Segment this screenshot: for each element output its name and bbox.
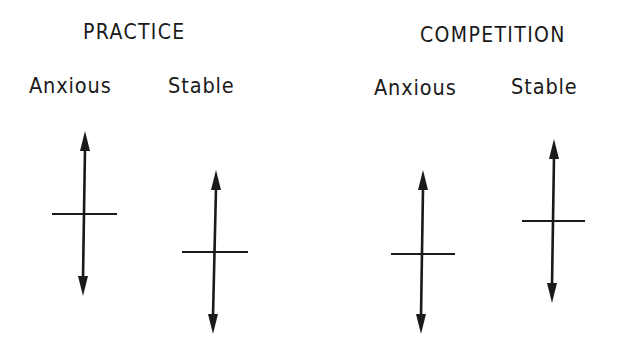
arrowhead-down-icon (208, 314, 218, 334)
arrowhead-down-icon (416, 314, 426, 334)
arrowhead-up-icon (418, 170, 428, 190)
practice-stable-arrow-icon (182, 170, 248, 334)
arrow-shaft (421, 188, 423, 316)
arrowhead-up-icon (211, 170, 221, 190)
arrow-layer (52, 131, 585, 334)
arrowhead-down-icon (78, 276, 88, 296)
arrowhead-up-icon (80, 131, 90, 151)
practice-anxious-arrow-icon (52, 131, 117, 296)
arrowhead-up-icon (549, 139, 559, 159)
arrowhead-down-icon (547, 283, 557, 303)
arrows-canvas (0, 0, 620, 361)
competition-stable-arrow-icon (522, 139, 585, 303)
competition-anxious-arrow-icon (391, 170, 455, 334)
